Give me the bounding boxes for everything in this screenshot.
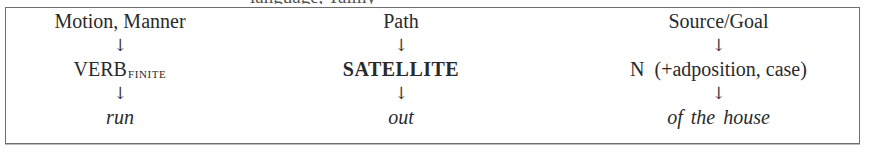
label-path: Path: [383, 9, 419, 33]
down-arrow-icon: ↓: [394, 33, 408, 57]
label-source-goal: Source/Goal: [669, 9, 769, 33]
example-run: run: [106, 105, 134, 129]
down-arrow-icon: ↓: [711, 81, 725, 105]
down-arrow-icon: ↓: [711, 33, 725, 57]
noun-head: N: [630, 58, 644, 80]
cutoff-heading-fragment: language, Talmy: [250, 0, 610, 4]
noun-adposition-node: N(+adposition, case): [630, 57, 807, 81]
verb-finite-node: VERBFINITE: [74, 57, 167, 81]
example-out: out: [388, 105, 414, 129]
down-arrow-icon: ↓: [394, 81, 408, 105]
column-motion-manner: Motion, Manner ↓ VERBFINITE ↓ run: [6, 8, 234, 145]
diagram-frame: Motion, Manner ↓ VERBFINITE ↓ run Path ↓…: [5, 7, 860, 144]
label-motion-manner: Motion, Manner: [54, 9, 185, 33]
satellite-node: SATELLITE: [343, 57, 459, 81]
finite-subscript: FINITE: [128, 68, 166, 80]
down-arrow-icon: ↓: [113, 33, 127, 57]
example-of-the-house: of the house: [667, 105, 770, 129]
column-path: Path ↓ SATELLITE ↓ out: [286, 8, 516, 145]
verb-text: VERB: [74, 58, 127, 80]
column-source-goal: Source/Goal ↓ N(+adposition, case) ↓ of …: [551, 8, 870, 145]
down-arrow-icon: ↓: [113, 81, 127, 105]
adposition-case-text: (+adposition, case): [655, 58, 807, 80]
